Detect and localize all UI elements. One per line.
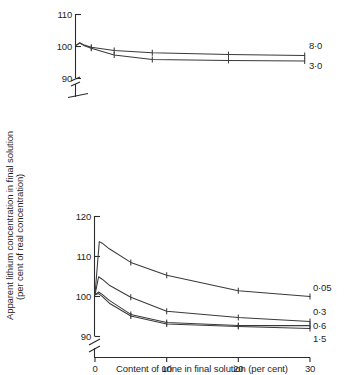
y-axis-title-line2: (per cent of real concentration)	[14, 174, 25, 300]
lower-curve-label-0-3: 0·3	[313, 306, 326, 317]
lower-curve-label-1-5: 1·5	[313, 333, 326, 344]
upper-axis-foot	[68, 94, 88, 98]
upper-curve-label-3-0: 3·0	[309, 60, 322, 71]
upper-curve-label-8-0: 8·0	[309, 40, 322, 51]
lower-ytick-label-120: 120	[76, 211, 91, 222]
upper-curve-3-0	[76, 43, 305, 61]
upper-ytick-label-110: 110	[57, 9, 72, 20]
lower-ytick-label-90: 90	[81, 331, 91, 342]
lower-curve-0-6	[95, 292, 310, 326]
lower-ytick-label-110: 110	[76, 251, 91, 262]
lower-curve-0-05	[95, 242, 310, 297]
upper-ytick-label-90: 90	[62, 73, 72, 84]
lower-curve-label-0-05: 0·05	[313, 282, 331, 293]
upper-ytick-label-100: 100	[57, 41, 72, 52]
lower-curve-1-5	[95, 294, 310, 329]
lower-ytick-label-100: 100	[76, 291, 91, 302]
lower-xtick-label-0: 0	[92, 363, 97, 374]
chart-svg: 110 100 90 8·0 3·0	[0, 0, 344, 375]
lower-curve-label-0-6: 0·6	[313, 320, 326, 331]
lower-xtick-label-30: 30	[305, 363, 315, 374]
upper-panel: 110 100 90 8·0 3·0	[57, 9, 322, 98]
figure-container: 110 100 90 8·0 3·0	[0, 0, 344, 375]
x-axis-title: Content of urine in final solution (per …	[116, 363, 288, 374]
lower-panel: 120 110 100 90 0 10 20 30	[76, 211, 331, 374]
